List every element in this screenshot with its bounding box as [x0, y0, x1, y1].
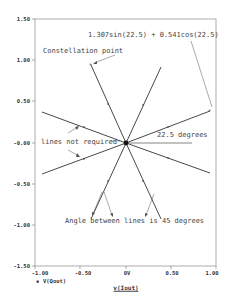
legend-marker-icon: ▪ [36, 278, 39, 284]
annotation-angle-between-lines: Angle between lines is 45 degrees [65, 217, 204, 225]
y-tick-label: 1.50 [17, 16, 30, 22]
y-tick-label: 1.00 [17, 57, 30, 63]
legend-label: V(Qout) [43, 278, 66, 284]
legend: ▪ V(Qout) [36, 278, 66, 284]
y-tick-label: -1.00 [13, 222, 30, 228]
x-axis: -1.00 -0.50 0V 0.50 1.00 [32, 266, 219, 276]
x-tick-label: 0V [124, 270, 131, 276]
x-axis-label: v(Iout) [113, 284, 138, 291]
y-tick-label: -0.00 [13, 140, 30, 146]
x-tick-label: -0.50 [75, 270, 92, 276]
constellation-plot: 1.50 1.00 0.50 -0.00 -0.50 -1.00 -1.50 -… [0, 0, 234, 303]
y-tick-label: 0.50 [17, 98, 30, 104]
annotation-constellation-point: Constellation point [43, 47, 123, 55]
annotations: 1.307sin(22.5) + 0.541cos(22.5) Constell… [41, 31, 219, 225]
annotation-lines-not-required: lines not required [41, 138, 117, 146]
x-tick-label: -1.00 [32, 270, 49, 276]
constellation-point-marker-icon: * [89, 62, 92, 68]
annotation-22-5-degrees: 22.5 degrees [157, 131, 208, 139]
y-axis: 1.50 1.00 0.50 -0.00 -0.50 -1.00 -1.50 [13, 16, 35, 269]
origin-point [124, 141, 129, 146]
constellation-point-marker-icon: * [208, 108, 211, 114]
y-tick-label: -0.50 [13, 181, 30, 187]
y-tick-label: -1.50 [13, 263, 30, 269]
x-tick-label: 0.50 [165, 270, 178, 276]
annotation-formula: 1.307sin(22.5) + 0.541cos(22.5) [88, 31, 219, 39]
x-tick-label: 1.00 [205, 270, 218, 276]
